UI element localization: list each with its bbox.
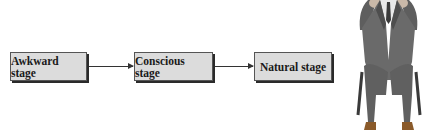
arrow-connector xyxy=(89,66,133,67)
arrow-connector xyxy=(215,66,253,67)
seated-man-illustration-icon xyxy=(340,0,437,135)
stage-box-natural: Natural stage xyxy=(254,52,332,81)
stage-label: Natural stage xyxy=(260,61,326,73)
stage-label: Awkward stage xyxy=(11,55,86,79)
stage-box-awkward: Awkward stage xyxy=(10,52,87,81)
stage-box-conscious: Conscious stage xyxy=(134,52,213,81)
stage-label: Conscious stage xyxy=(135,55,212,79)
